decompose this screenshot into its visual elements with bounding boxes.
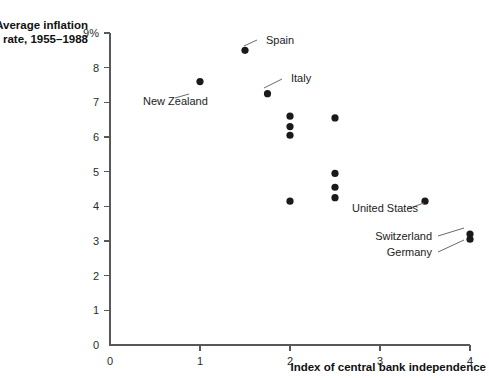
x-tick-label: 0	[107, 355, 113, 367]
y-axis-title-line2: rate, 1955–1988	[3, 33, 89, 45]
annotation-leader-line	[438, 240, 464, 252]
data-point	[466, 236, 473, 243]
y-tick-label: 5	[93, 166, 99, 178]
axis-lines	[110, 33, 470, 345]
y-tick-label: 7	[93, 96, 99, 108]
data-point	[331, 170, 338, 177]
annotation-label: Spain	[266, 34, 294, 46]
annotation-label: Italy	[291, 72, 312, 84]
y-tick-label: 4	[93, 200, 99, 212]
data-point	[286, 113, 293, 120]
data-point	[286, 198, 293, 205]
annotation-leader-line	[264, 79, 282, 88]
data-point	[286, 123, 293, 130]
data-point	[241, 47, 248, 54]
x-axis-title: Index of central bank independence	[290, 361, 486, 373]
annotation-leader-line	[438, 228, 464, 236]
x-tick-label: 1	[197, 355, 203, 367]
y-tick-label: 0	[93, 339, 99, 351]
y-axis-title-line1: Average inflation	[0, 19, 88, 31]
annotation-label: New Zealand	[143, 95, 208, 107]
data-point	[286, 132, 293, 139]
y-tick-label: 8	[93, 62, 99, 74]
data-point	[331, 114, 338, 121]
y-tick-label: 1	[93, 304, 99, 316]
chart-canvas: 0123456789%01234Average inflationrate, 1…	[0, 0, 489, 378]
data-point	[264, 90, 271, 97]
data-point	[331, 194, 338, 201]
annotation-leader-line	[244, 40, 257, 46]
annotation-label: Germany	[387, 246, 433, 258]
y-tick-label: 3	[93, 235, 99, 247]
annotation-label: United States	[352, 202, 419, 214]
data-point	[331, 184, 338, 191]
scatter-chart: 0123456789%01234Average inflationrate, 1…	[0, 0, 489, 378]
y-tick-label: 2	[93, 270, 99, 282]
y-tick-label: 6	[93, 131, 99, 143]
data-point	[196, 78, 203, 85]
annotation-label: Switzerland	[375, 230, 432, 242]
